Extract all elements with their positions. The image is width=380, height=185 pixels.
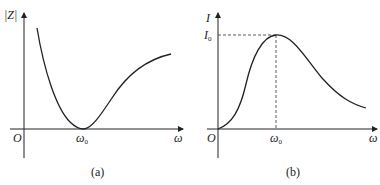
panel-b-caption: (b) [286, 166, 300, 178]
panel-a-impedance-curve [37, 28, 171, 129]
panel-a-omega0-label: ω0 [76, 132, 88, 148]
panel-b-peak-label: I0 [204, 29, 212, 45]
omega0-subscript: 0 [278, 138, 282, 146]
panel-a-x-axis-label: ω [174, 132, 182, 144]
panel-b-y-axis-label: I [206, 12, 210, 24]
panel-b-origin-label: O [207, 132, 216, 144]
panel-b-current-curve [218, 35, 366, 129]
panel-a-graph [10, 13, 183, 158]
panel-b-graph [207, 13, 377, 158]
panel-a-origin-label: O [13, 132, 22, 144]
resonance-diagrams [0, 0, 380, 185]
omega0-subscript: 0 [84, 138, 88, 146]
panel-a-caption: (a) [91, 166, 104, 178]
panel-b-x-axis-label: ω [369, 132, 377, 144]
panel-b-omega0-label: ω0 [270, 132, 282, 148]
panel-a-y-axis-label: |Z| [4, 9, 17, 21]
peak-subscript: 0 [208, 35, 212, 43]
